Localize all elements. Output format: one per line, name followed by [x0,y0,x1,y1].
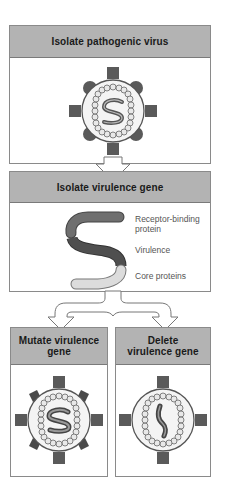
deleted-gene-virus-icon [0,0,230,468]
